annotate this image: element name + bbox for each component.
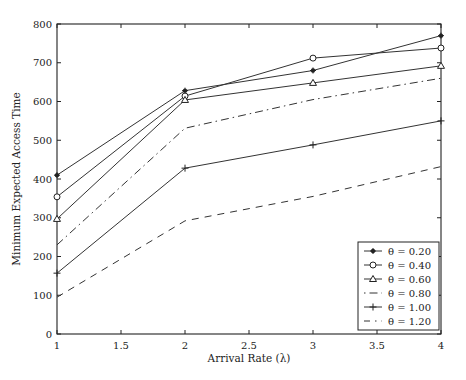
x-tick-label: 1	[54, 340, 60, 351]
x-tick-label: 1.5	[113, 340, 129, 351]
x-tick-label: 2	[182, 340, 188, 351]
legend-label: θ = 0.80	[388, 288, 431, 299]
series-1	[54, 45, 444, 200]
x-tick-label: 4	[438, 340, 444, 351]
legend-label: θ = 0.40	[388, 260, 431, 271]
y-tick-label: 700	[33, 57, 52, 68]
y-tick-label: 100	[33, 290, 52, 301]
y-tick-label: 400	[33, 174, 52, 185]
legend-label: θ = 0.60	[388, 274, 431, 285]
y-tick-label: 300	[33, 212, 52, 223]
legend-label: θ = 0.20	[388, 246, 431, 257]
x-tick-label: 3.5	[369, 340, 385, 351]
x-tick-label: 3	[310, 340, 316, 351]
line-chart: 11.522.533.540100200300400500600700800 θ…	[0, 0, 466, 380]
x-axis-label: Arrival Rate (λ)	[207, 352, 291, 364]
series-3	[57, 78, 441, 245]
legend: θ = 0.20θ = 0.40θ = 0.60θ = 0.80θ = 1.00…	[358, 242, 439, 330]
legend-label: θ = 1.00	[388, 302, 431, 313]
y-tick-label: 500	[33, 135, 52, 146]
y-tick-label: 600	[33, 96, 52, 107]
y-axis-label: Minimum Expected Access Time	[10, 92, 22, 265]
x-tick-label: 2.5	[241, 340, 257, 351]
y-tick-label: 200	[33, 251, 52, 262]
y-tick-label: 0	[46, 329, 52, 340]
series-2	[54, 62, 445, 221]
y-tick-label: 800	[33, 19, 52, 30]
legend-label: θ = 1.20	[388, 316, 431, 327]
